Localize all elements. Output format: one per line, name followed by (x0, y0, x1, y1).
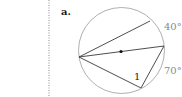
circle-diagram (0, 0, 182, 97)
arc-label-40: 40° (164, 22, 182, 32)
chord-upper (79, 21, 150, 57)
chord-lower (79, 57, 141, 88)
arc-label-70: 70° (164, 66, 182, 76)
center-point (119, 50, 122, 53)
chord-right (141, 46, 164, 88)
angle-1-label: 1 (134, 72, 140, 82)
part-label: a. (61, 7, 71, 17)
geometry-figure: a. 40° 70° 1 (0, 0, 182, 97)
